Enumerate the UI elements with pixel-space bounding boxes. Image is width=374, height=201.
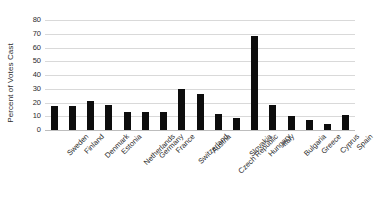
y-axis-tick-label: 50 — [33, 57, 41, 65]
bar — [105, 105, 112, 130]
x-axis-labels: SwedenFinlandDenmarkEstoniaNetherlandsGe… — [45, 130, 355, 200]
bar — [269, 105, 276, 130]
y-axis-tick-label: 0 — [37, 126, 41, 134]
y-axis-tick-label: 70 — [33, 30, 41, 38]
y-axis-tick-label: 40 — [33, 71, 41, 79]
bar — [215, 114, 222, 130]
bar — [142, 112, 149, 130]
bar — [178, 89, 185, 130]
bar — [160, 112, 167, 130]
y-axis-title: Percent of Votes Cast — [3, 18, 19, 148]
y-axis-tick-label: 30 — [33, 85, 41, 93]
bar — [306, 120, 313, 130]
bar — [288, 116, 295, 130]
y-axis-tick-label: 10 — [33, 112, 41, 120]
bar — [124, 112, 131, 130]
bar — [251, 36, 258, 130]
y-axis-tick-label: 60 — [33, 44, 41, 52]
bar — [342, 115, 349, 130]
bar — [69, 106, 76, 130]
y-axis-tick-label: 20 — [33, 99, 41, 107]
x-axis-tick-label: Austria — [210, 132, 233, 155]
bar — [197, 94, 204, 130]
bar — [233, 118, 240, 130]
plot-area: 01020304050607080 — [45, 20, 355, 130]
bars-group — [45, 20, 355, 130]
y-axis-tick-label: 80 — [33, 16, 41, 24]
bar — [51, 106, 58, 130]
bar — [87, 101, 94, 130]
